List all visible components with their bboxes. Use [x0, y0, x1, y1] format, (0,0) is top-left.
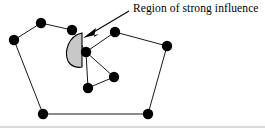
graph-edge: [14, 40, 43, 114]
graph-node-inner-right: [109, 72, 119, 82]
graph-edge: [86, 52, 88, 88]
edge-layer: [14, 23, 167, 114]
influence-region-diagram: Region of strong influence: [0, 0, 265, 128]
graph-node-outer-left: [9, 35, 19, 45]
region-of-strong-influence: [67, 33, 82, 67]
graph-node-outer-top-right: [110, 27, 120, 37]
graph-node-inner-lower: [83, 83, 93, 93]
graph-node-outer-bottom-right: [143, 109, 153, 119]
graph-node-outer-right: [162, 41, 172, 51]
graph-edge: [86, 52, 114, 77]
annotation-label: Region of strong influence: [133, 1, 259, 15]
graph-node-outer-top-mid: [67, 25, 77, 35]
graph-edge: [115, 32, 167, 46]
arrow-pointing-to-region-icon: [83, 28, 99, 38]
diagram-canvas: [0, 0, 265, 128]
influence-region-layer: [67, 33, 82, 67]
graph-node-outer-top-left: [36, 18, 46, 28]
graph-node-outer-bottom-left: [38, 109, 48, 119]
graph-node-inner-upper: [81, 47, 91, 57]
graph-edge: [148, 46, 167, 114]
